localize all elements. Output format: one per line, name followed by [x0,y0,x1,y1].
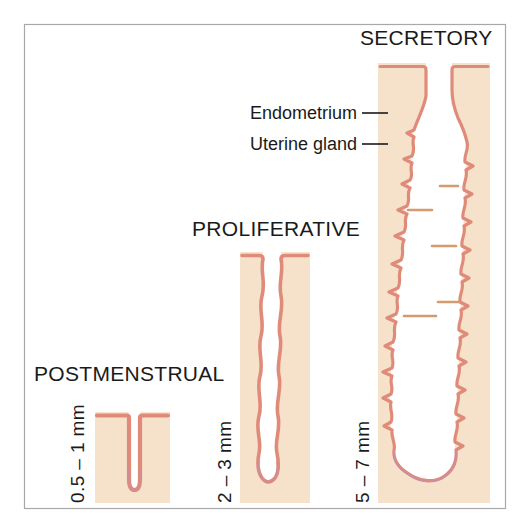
stage-secretory [378,63,490,503]
stage-postmenstrual [95,412,170,503]
thickness-label-secretory: 5 – 7 mm [352,421,373,503]
thickness-label-postmenstrual: 0.5 – 1 mm [67,404,88,503]
callout-label-endometrium: Endometrium [250,103,357,123]
stage-title-proliferative: PROLIFERATIVE [192,217,360,240]
stage-title-secretory: SECRETORY [360,26,493,49]
thickness-label-proliferative: 2 – 3 mm [214,421,235,503]
endometrium-stages-figure: SECRETORY PROLIFERATIVE POSTMENSTRUAL En… [0,0,525,525]
stage-proliferative [240,252,310,503]
stage-title-postmenstrual: POSTMENSTRUAL [34,362,225,385]
callout-label-uterine-gland: Uterine gland [250,134,357,154]
figure-canvas: SECRETORY PROLIFERATIVE POSTMENSTRUAL En… [0,0,525,525]
